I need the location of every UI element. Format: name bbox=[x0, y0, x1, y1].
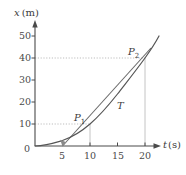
p1-subscript: 1 bbox=[81, 118, 85, 126]
tangent-line-T bbox=[63, 48, 152, 146]
x-tick-label-5: 5 bbox=[59, 151, 65, 161]
origin-label: 0 bbox=[24, 144, 30, 154]
x-tick-label-10: 10 bbox=[84, 151, 96, 161]
x-axis-unit: (s) bbox=[168, 139, 181, 150]
position-curve bbox=[35, 36, 159, 146]
x-axis-variable: t bbox=[163, 139, 167, 150]
y-tick-label-20: 20 bbox=[17, 97, 31, 107]
x-tick-label-15: 15 bbox=[112, 151, 124, 161]
p2-base: P bbox=[128, 46, 135, 57]
x-axis-title: t(s) bbox=[163, 140, 181, 150]
tangent-label-T: T bbox=[117, 101, 124, 111]
y-axis-unit: (m) bbox=[22, 7, 39, 18]
x-axis-arrow bbox=[154, 143, 162, 148]
y-tick-label-10: 10 bbox=[17, 119, 31, 129]
y-axis-title: x(m) bbox=[14, 8, 39, 18]
y-tick-label-40: 40 bbox=[17, 53, 31, 63]
position-time-graph-figure: x(m) t(s) 50 40 30 20 10 0 5 10 15 20 P1… bbox=[0, 0, 186, 175]
y-axis-arrow bbox=[32, 20, 37, 28]
point-label-p2: P2 bbox=[128, 47, 139, 60]
p1-base: P bbox=[74, 112, 81, 123]
p2-subscript: 2 bbox=[135, 52, 139, 60]
y-tick-label-50: 50 bbox=[17, 31, 31, 41]
y-tick-label-30: 30 bbox=[17, 75, 31, 85]
x-tick-label-20: 20 bbox=[139, 151, 151, 161]
point-label-p1: P1 bbox=[74, 113, 85, 126]
y-axis-variable: x bbox=[14, 7, 20, 18]
